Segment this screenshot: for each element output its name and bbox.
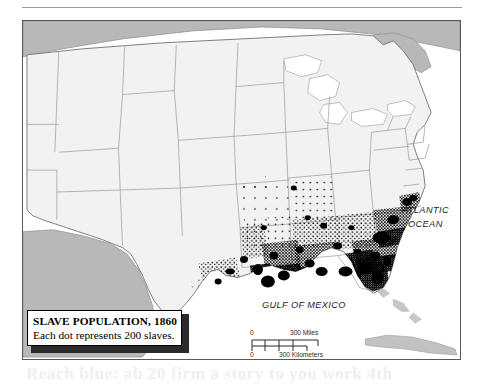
scale-miles-max: 300 Miles [290, 329, 318, 336]
scale-miles-zero: 0 [250, 329, 254, 336]
label-atlantic-ocean-line2: OCEAN [408, 219, 443, 229]
scale-bar: 0 300 Miles 0 300 Kilometers [250, 329, 370, 359]
header-rule [22, 7, 462, 8]
map-figure [22, 20, 461, 360]
label-gulf-of-mexico: GULF OF MEXICO [262, 300, 346, 310]
legend-subtitle: Each dot represents 200 slaves. [33, 328, 181, 343]
scale-km-max: 300 Kilometers [279, 351, 323, 358]
label-atlantic-ocean-line1: ATLANTIC [402, 205, 449, 215]
map-legend: SLAVE POPULATION, 1860 Each dot represen… [27, 310, 182, 346]
page-bleed-through-text: Reach blue: ab 20 firm a story to you wo… [26, 364, 456, 384]
scale-km-zero: 0 [250, 351, 254, 358]
map-graphic [23, 21, 460, 359]
legend-title: SLAVE POPULATION, 1860 [33, 314, 181, 328]
